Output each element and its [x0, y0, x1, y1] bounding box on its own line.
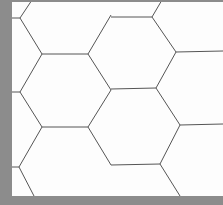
- hexagon-grid: [0, 0, 223, 205]
- image-frame: [0, 0, 223, 205]
